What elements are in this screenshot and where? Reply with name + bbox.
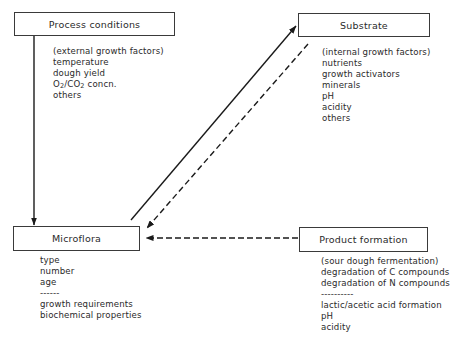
list-item: dough yield: [53, 68, 164, 79]
node-process-conditions: Process conditions: [14, 12, 175, 36]
list-item: acidity: [322, 102, 430, 113]
node-microflora: Microflora: [13, 226, 140, 251]
product-formation-list: (sour dough fermentation) degradation of…: [321, 256, 450, 333]
list-item: age: [40, 277, 142, 288]
microflora-list: type number age ------ growth requiremen…: [40, 255, 142, 321]
list-item: temperature: [53, 57, 164, 68]
list-item: (sour dough fermentation): [321, 256, 450, 267]
substrate-list: (internal growth factors) nutrients grow…: [322, 47, 430, 124]
list-item: (internal growth factors): [322, 47, 430, 58]
node-title: Process conditions: [49, 19, 141, 30]
list-item: degradation of N compounds: [321, 278, 450, 289]
list-item: (external growth factors): [53, 46, 164, 57]
list-item: lactic/acetic acid formation: [321, 300, 450, 311]
node-title: Microflora: [52, 233, 101, 244]
node-substrate: Substrate: [298, 13, 430, 37]
list-item: type: [40, 255, 142, 266]
list-item: number: [40, 266, 142, 277]
list-item: pH: [322, 91, 430, 102]
list-item: degradation of C compounds: [321, 267, 450, 278]
list-item: biochemical properties: [40, 310, 142, 321]
node-title: Substrate: [340, 20, 388, 31]
list-item: others: [53, 90, 164, 101]
list-item: growth activators: [322, 69, 430, 80]
list-item: nutrients: [322, 58, 430, 69]
process-conditions-list: (external growth factors) temperature do…: [53, 46, 164, 101]
list-item: others: [322, 113, 430, 124]
list-separator: ------: [40, 288, 142, 299]
node-title: Product formation: [319, 234, 408, 245]
list-item-gas-concentration: O2/CO2 concn.: [53, 79, 164, 90]
arrow-substrate-to-microflora: [147, 44, 308, 228]
node-product-formation: Product formation: [299, 227, 428, 252]
list-separator: ----------: [321, 289, 450, 300]
list-item: growth requirements: [40, 299, 142, 310]
list-item: minerals: [322, 80, 430, 91]
list-item: pH: [321, 311, 450, 322]
list-item: acidity: [321, 322, 450, 333]
